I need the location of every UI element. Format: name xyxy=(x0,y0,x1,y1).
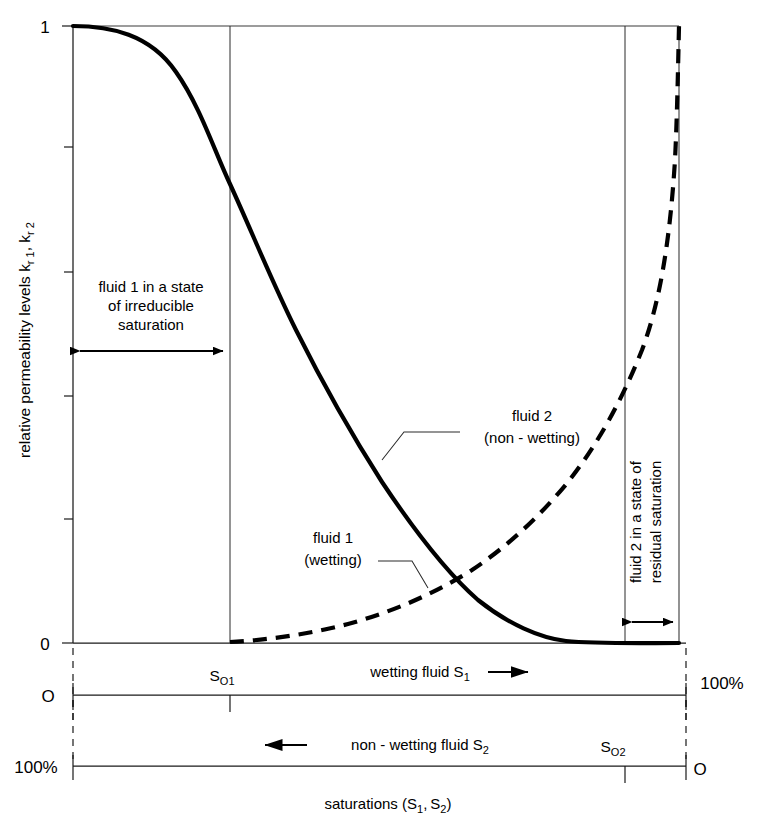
fluid1-leader-line xyxy=(378,561,428,588)
irreducible-line-2: of irreducible xyxy=(108,297,194,314)
sat1-tick-label-base: S xyxy=(209,667,219,684)
sat1-direction-sub: 1 xyxy=(464,671,470,683)
sat2-left-label: 100% xyxy=(14,758,57,777)
curve-label-fluid-1: fluid 1 (wetting) xyxy=(304,529,428,588)
y-axis-label-prefix: relative permeability levels k xyxy=(16,264,33,458)
curve-label-fluid-2: fluid 2 (non - wetting) xyxy=(382,407,580,460)
curve-fluid-2-nonwetting xyxy=(73,26,679,643)
y-axis-label: relative permeability levels kr 1, kr 2 xyxy=(16,222,36,458)
y-axis-label-mid: , k xyxy=(16,235,33,252)
x-axis-title-mid: , xyxy=(423,795,427,812)
sat2-direction-text: non - wetting fluid S xyxy=(351,736,483,753)
sat1-tick-label-sub: O1 xyxy=(220,675,235,687)
saturation-axis-1: O 100% SO1 wetting fluid S1 xyxy=(41,648,743,720)
residual-line-1: fluid 2 in a state of xyxy=(627,460,644,583)
sat2-right-label: O xyxy=(693,760,706,779)
permeability-chart-svg: 1 0 relative permeability levels kr 1, k… xyxy=(0,0,758,823)
sat2-direction-sub: 2 xyxy=(483,744,489,756)
sat1-direction-label: wetting fluid S1 xyxy=(369,663,470,683)
y-axis-top-value: 1 xyxy=(40,18,49,37)
sat2-tick-label-so2: SO2 xyxy=(600,738,625,758)
sat1-tick-label-so1: SO1 xyxy=(209,667,234,687)
residual-line-2: residual saturation xyxy=(647,461,664,584)
y-axis-label-sub2: r 2 xyxy=(24,222,36,235)
svg-text:relative permeability levels k: relative permeability levels kr 1, kr 2 xyxy=(16,222,36,458)
irreducible-line-1: fluid 1 in a state xyxy=(98,278,203,295)
saturation-axis-2: 100% O SO2 non - wetting fluid S2 xyxy=(14,700,706,783)
sat1-right-label: 100% xyxy=(700,674,743,693)
irreducible-line-3: saturation xyxy=(118,316,184,333)
vertical-marker-lines xyxy=(230,26,625,643)
fluid2-leader-line xyxy=(382,432,460,460)
y-axis-label-sub1: r 1 xyxy=(24,251,36,264)
annotation-irreducible-saturation: fluid 1 in a state of irreducible satura… xyxy=(80,278,223,351)
fluid2-label-line-1: fluid 2 xyxy=(512,407,552,424)
y-axis-ticks xyxy=(62,26,73,643)
sat1-direction-text: wetting fluid S xyxy=(369,663,463,680)
figure-root: 1 0 relative permeability levels kr 1, k… xyxy=(0,0,758,823)
sat2-direction-label: non - wetting fluid S2 xyxy=(351,736,489,756)
fluid2-label-line-2: (non - wetting) xyxy=(484,429,580,446)
x-axis-title-close: ) xyxy=(446,795,451,812)
annotation-residual-saturation: fluid 2 in a state of residual saturatio… xyxy=(627,460,673,622)
x-axis-title-s2: S xyxy=(430,795,440,812)
sat1-left-label: O xyxy=(41,687,54,706)
fluid1-label-line-2: (wetting) xyxy=(304,551,362,568)
x-axis-title: saturations (S1,S2) xyxy=(325,795,452,815)
sat2-tick-label-sub: O2 xyxy=(611,746,626,758)
sat2-tick-label-base: S xyxy=(600,738,610,755)
plot-frame xyxy=(73,26,686,643)
fluid1-label-line-1: fluid 1 xyxy=(313,529,353,546)
y-axis-bottom-value: 0 xyxy=(40,635,49,654)
x-axis-title-text: saturations (S xyxy=(325,795,418,812)
